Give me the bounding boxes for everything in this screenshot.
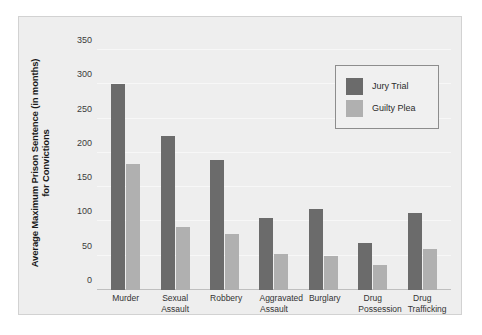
x-axis-tick-label: Drug Trafficking — [408, 293, 437, 327]
bar[interactable] — [161, 136, 175, 290]
bar-group — [210, 50, 239, 290]
x-axis-tick-label: Murder — [111, 293, 140, 327]
legend-item[interactable]: Jury Trial — [346, 75, 428, 97]
legend-label: Guilty Plea — [372, 103, 416, 113]
bar[interactable] — [210, 160, 224, 290]
y-axis-tick-label: 300 — [77, 69, 92, 79]
y-axis-tick-label: 200 — [77, 138, 92, 148]
x-axis-tick-label: Sexual Assault — [161, 293, 190, 327]
y-axis-title-line-2: for Convictions — [40, 129, 52, 196]
bar[interactable] — [309, 209, 323, 290]
legend-swatch-icon — [346, 100, 363, 117]
legend-swatch-icon — [346, 78, 363, 95]
bar[interactable] — [225, 234, 239, 290]
chart-legend: Jury TrialGuilty Plea — [335, 65, 439, 129]
bar[interactable] — [373, 265, 387, 290]
bar[interactable] — [259, 218, 273, 290]
y-axis-tick-label: 350 — [77, 35, 92, 45]
y-axis-tick-label: 0 — [87, 275, 92, 285]
bar[interactable] — [126, 164, 140, 290]
y-axis-tick-label: 150 — [77, 172, 92, 182]
bar[interactable] — [408, 213, 422, 290]
x-axis-tick-label: Robbery — [210, 293, 239, 327]
bar-group — [309, 50, 338, 290]
legend-label: Jury Trial — [372, 81, 409, 91]
x-axis-tick-label: Burglary — [309, 293, 338, 327]
legend-item[interactable]: Guilty Plea — [346, 97, 428, 119]
bar[interactable] — [274, 254, 288, 290]
y-axis-tick-label: 250 — [77, 104, 92, 114]
bar-group — [161, 50, 190, 290]
y-axis-title: Average Maximum Prison Sentence (in mont… — [25, 47, 55, 279]
bar[interactable] — [358, 243, 372, 290]
x-axis-tick-label: Drug Possession — [358, 293, 387, 327]
y-axis-title-line-1: Average Maximum Prison Sentence (in mont… — [29, 59, 41, 268]
x-axis-tick-label: Aggravated Assault — [259, 293, 288, 327]
y-axis-tick-label: 100 — [77, 206, 92, 216]
y-axis-tick-label: 50 — [82, 241, 92, 251]
bar-group — [111, 50, 140, 290]
chart-panel: Average Maximum Prison Sentence (in mont… — [18, 16, 462, 315]
bar[interactable] — [176, 227, 190, 290]
bar[interactable] — [111, 84, 125, 290]
bar[interactable] — [423, 249, 437, 290]
bar-group — [259, 50, 288, 290]
bar[interactable] — [324, 256, 338, 290]
x-axis-tick-labels: MurderSexual AssaultRobberyAggravated As… — [97, 293, 451, 327]
